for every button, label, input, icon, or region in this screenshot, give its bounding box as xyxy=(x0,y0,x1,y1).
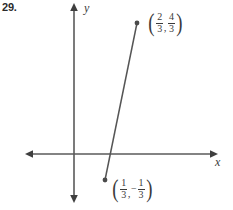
open-paren: ( xyxy=(148,13,154,33)
coordinate-plane-figure: 29. y x ( 2 3 , 4 3 xyxy=(0,0,233,210)
coordinate-comma: , xyxy=(164,22,167,34)
upper-point-coordinate-label: ( 2 3 , 4 3 ) xyxy=(147,12,184,34)
lower-x-denominator: 3 xyxy=(120,190,127,201)
upper-y-denominator: 3 xyxy=(168,24,175,35)
y-axis-bottom-arrow-icon xyxy=(70,195,78,203)
data-point-lower xyxy=(103,178,108,183)
open-paren: ( xyxy=(112,179,118,199)
y-axis-top-arrow-icon xyxy=(70,3,78,11)
lower-point-coordinate-label: ( 1 3 , − 1 3 ) xyxy=(111,178,154,200)
lower-y-fraction: 1 3 xyxy=(138,178,145,200)
upper-y-numerator: 4 xyxy=(168,12,175,23)
lower-y-sign: − xyxy=(131,184,137,194)
line-segment xyxy=(105,23,137,180)
x-axis-left-arrow-icon xyxy=(25,150,33,158)
lower-y-denominator: 3 xyxy=(138,190,145,201)
upper-x-numerator: 2 xyxy=(156,12,163,23)
lower-y-numerator: 1 xyxy=(138,178,145,189)
y-axis-label: y xyxy=(84,1,89,16)
lower-x-numerator: 1 xyxy=(120,178,127,189)
x-axis-label: x xyxy=(215,155,220,170)
upper-x-denominator: 3 xyxy=(156,24,163,35)
upper-x-fraction: 2 3 xyxy=(156,12,163,34)
close-paren: ) xyxy=(146,179,152,199)
lower-x-fraction: 1 3 xyxy=(120,178,127,200)
upper-y-fraction: 4 3 xyxy=(168,12,175,34)
close-paren: ) xyxy=(177,13,183,33)
data-point-upper xyxy=(135,21,140,26)
